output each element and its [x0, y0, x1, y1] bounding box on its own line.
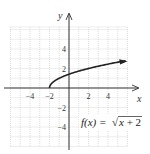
x-tick-label: 4	[106, 92, 110, 101]
x-tick-label: −2	[45, 92, 54, 101]
radical-sign: √	[112, 116, 119, 128]
y-axis-label: y	[57, 10, 63, 21]
curve-arrow-icon	[119, 59, 127, 64]
x-tick-label: −4	[26, 92, 35, 101]
y-tick-label: 2	[62, 65, 66, 74]
radicand: x + 2	[118, 116, 141, 128]
x-axis-label: x	[136, 93, 142, 104]
function-curve	[50, 61, 126, 88]
function-lhs: f(x) =	[81, 116, 106, 129]
y-tick-label: 4	[62, 45, 66, 54]
svg-text:f(x) =: f(x) =	[81, 116, 106, 129]
function-label: f(x) = √ x + 2	[79, 114, 143, 130]
y-tick-label: −4	[57, 123, 66, 132]
x-tick-label: 2	[87, 92, 91, 101]
y-tick-label: −2	[57, 104, 66, 113]
function-graph: x y −4−22442−2−4 f(x) = √ x + 2	[0, 0, 150, 154]
